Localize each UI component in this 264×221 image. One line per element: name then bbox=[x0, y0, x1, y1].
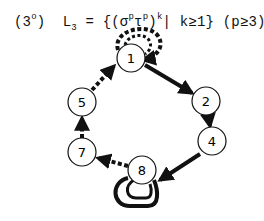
node-1: 1 bbox=[117, 44, 145, 72]
edge-5-1 bbox=[92, 66, 114, 90]
node-8: 8 bbox=[128, 156, 156, 184]
node-7: 7 bbox=[68, 138, 96, 166]
node-5: 5 bbox=[68, 88, 96, 116]
node-4-label: 4 bbox=[208, 134, 216, 149]
node-1-label: 1 bbox=[127, 51, 135, 66]
node-5-label: 5 bbox=[78, 95, 86, 110]
state-diagram: 1 2 4 8 7 5 bbox=[0, 0, 264, 221]
edge-1-2 bbox=[145, 65, 192, 93]
edge-4-8 bbox=[160, 154, 200, 180]
node-8-label: 8 bbox=[138, 163, 146, 178]
edge-2-4 bbox=[208, 114, 210, 126]
edge-8-7 bbox=[98, 158, 128, 166]
node-2-label: 2 bbox=[202, 94, 210, 109]
node-7-label: 7 bbox=[78, 145, 86, 160]
node-4: 4 bbox=[198, 127, 226, 155]
node-2: 2 bbox=[192, 87, 220, 115]
